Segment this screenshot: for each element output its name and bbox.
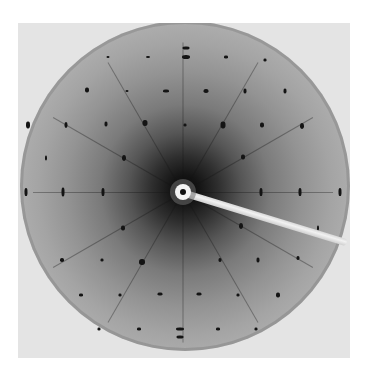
- diffraction-spot: [62, 188, 65, 197]
- diffraction-spot: [45, 156, 47, 161]
- diffraction-spot: [221, 122, 226, 129]
- diffraction-spot: [184, 124, 187, 127]
- diffraction-spot: [299, 188, 302, 196]
- diffraction-spot: [255, 328, 258, 331]
- diffraction-spot: [65, 122, 68, 128]
- diffraction-spot: [216, 328, 220, 331]
- diffraction-spot: [239, 223, 243, 229]
- diffraction-spot: [219, 258, 222, 262]
- diffraction-spot: [339, 188, 342, 196]
- diffraction-spot: [119, 294, 122, 297]
- radial-streak: [183, 43, 184, 193]
- diffraction-spot: [260, 123, 264, 128]
- diffraction-spot: [143, 120, 148, 126]
- diffraction-spot: [158, 293, 163, 296]
- radial-streak: [183, 192, 333, 193]
- diffraction-spot: [224, 56, 228, 59]
- diffraction-spot: [105, 122, 108, 127]
- diffraction-spot: [60, 258, 64, 262]
- diffraction-spot: [297, 256, 300, 260]
- diffraction-spot: [244, 89, 247, 94]
- diffraction-spot: [122, 155, 126, 161]
- diffraction-spot: [139, 259, 145, 265]
- diffraction-spot: [107, 56, 110, 58]
- diffraction-spot: [126, 90, 129, 92]
- diffraction-spot: [85, 88, 89, 93]
- diffraction-spot: [197, 293, 202, 296]
- diffraction-spot: [260, 188, 263, 196]
- diffraction-spot: [264, 59, 267, 62]
- diffraction-spot: [137, 328, 141, 331]
- radial-streak: [183, 193, 184, 343]
- diffraction-spot: [177, 336, 184, 339]
- diffraction-spot: [284, 89, 287, 94]
- diffraction-spot: [183, 47, 190, 50]
- diffraction-spot: [257, 258, 260, 263]
- radial-streak: [33, 192, 183, 193]
- diffraction-spot: [241, 155, 245, 160]
- diffraction-spot: [98, 328, 101, 331]
- diffraction-spot: [79, 294, 83, 297]
- diffraction-spot: [237, 294, 240, 297]
- diffraction-spot: [121, 226, 125, 231]
- diffraction-spot: [276, 293, 280, 298]
- diffraction-spot: [146, 56, 150, 58]
- diffraction-spot: [26, 122, 30, 129]
- diffraction-image: [18, 23, 350, 358]
- diffraction-spot: [102, 188, 105, 196]
- diffraction-spot: [176, 328, 184, 331]
- beamstop: [175, 184, 191, 200]
- beamstop-hole: [180, 189, 186, 195]
- diffraction-spot: [300, 123, 304, 129]
- diffraction-spot: [163, 90, 169, 93]
- diffraction-spot: [204, 89, 209, 93]
- diffraction-spot: [25, 188, 28, 196]
- diffraction-spot: [182, 55, 190, 59]
- diffraction-spot: [101, 259, 104, 262]
